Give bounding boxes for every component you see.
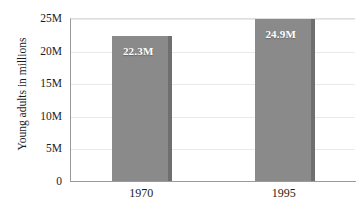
bar-slot: 24.9M bbox=[214, 19, 357, 181]
x-axis-category-label: 1970 bbox=[70, 186, 213, 201]
bar-1970[interactable]: 22.3M bbox=[112, 36, 172, 181]
y-axis-tick-label: 5M bbox=[4, 142, 66, 154]
y-axis-tick-label: 25M bbox=[4, 12, 66, 24]
plot-area: 22.3M24.9M bbox=[70, 18, 355, 181]
y-axis-tick-label: 0 bbox=[4, 175, 66, 187]
y-axis-tick-label: 15M bbox=[4, 77, 66, 89]
bar-value-label: 22.3M bbox=[112, 45, 164, 57]
x-axis-category-label: 1995 bbox=[213, 186, 356, 201]
x-axis-category-labels: 19701995 bbox=[70, 186, 355, 208]
chart-title bbox=[70, 0, 355, 3]
bar-1995[interactable]: 24.9M bbox=[255, 19, 315, 181]
y-axis-tick-label: 20M bbox=[4, 45, 66, 57]
bar-chart: Young adults in millions 05M10M15M20M25M… bbox=[0, 0, 364, 217]
y-axis-tick-labels: 05M10M15M20M25M bbox=[0, 0, 66, 217]
x-axis-line bbox=[70, 181, 356, 182]
bar-value-label: 24.9M bbox=[255, 28, 307, 40]
bar-slot: 22.3M bbox=[71, 19, 214, 181]
y-axis-tick-label: 10M bbox=[4, 110, 66, 122]
